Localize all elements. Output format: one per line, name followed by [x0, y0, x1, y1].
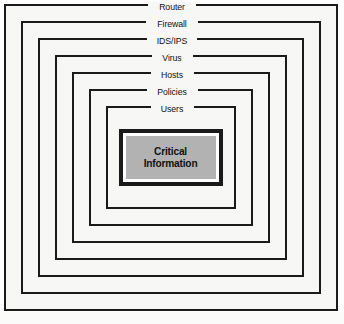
critical-information-box: Critical Information — [119, 129, 223, 186]
ring-label-hosts: Hosts — [146, 70, 198, 80]
ring-label-policies: Policies — [146, 87, 198, 97]
critical-information-fill: Critical Information — [126, 136, 216, 179]
critical-information-label: Critical Information — [144, 146, 198, 169]
layered-security-figure: Critical Information Router Firewall IDS… — [0, 0, 344, 324]
critical-information-line-2: Information — [144, 158, 198, 170]
ring-label-router: Router — [146, 2, 198, 12]
ring-label-virus: Virus — [146, 53, 198, 63]
ring-label-users: Users — [146, 104, 198, 114]
critical-information-line-1: Critical — [144, 146, 198, 158]
ring-label-ids-ips: IDS/IPS — [146, 36, 198, 46]
diagram-canvas: Critical Information Router Firewall IDS… — [0, 0, 344, 324]
ring-label-firewall: Firewall — [146, 19, 198, 29]
